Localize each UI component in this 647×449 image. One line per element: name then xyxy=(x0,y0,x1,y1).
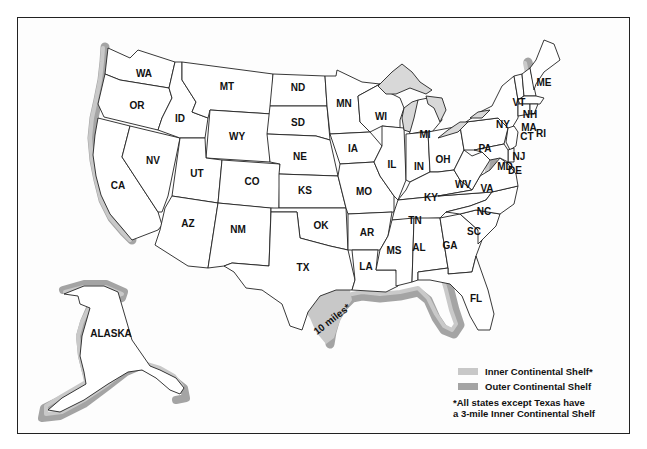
svg-text:ND: ND xyxy=(291,82,305,93)
svg-text:NJ: NJ xyxy=(513,151,526,162)
svg-text:MO: MO xyxy=(356,186,372,197)
lake-superior xyxy=(378,64,432,94)
svg-text:CA: CA xyxy=(111,180,125,191)
svg-text:IL: IL xyxy=(388,159,397,170)
state-ks[interactable] xyxy=(279,174,346,208)
svg-text:UT: UT xyxy=(190,168,203,179)
svg-text:MS: MS xyxy=(387,245,402,256)
svg-text:CO: CO xyxy=(245,176,260,187)
svg-text:NC: NC xyxy=(477,206,491,217)
svg-text:PA: PA xyxy=(478,143,491,154)
legend-label: Inner Continental Shelf* xyxy=(485,366,593,377)
svg-text:ID: ID xyxy=(175,113,185,124)
svg-text:KY: KY xyxy=(424,192,438,203)
inner-shelf-swatch xyxy=(458,368,478,375)
svg-text:FL: FL xyxy=(470,293,482,304)
svg-text:MN: MN xyxy=(336,98,352,109)
svg-text:RI: RI xyxy=(536,128,546,139)
svg-text:SD: SD xyxy=(291,117,305,128)
footnote-line-2: a 3-mile Inner Continental Shelf xyxy=(453,409,628,420)
svg-text:VA: VA xyxy=(480,183,493,194)
svg-text:NH: NH xyxy=(523,109,537,120)
svg-text:NY: NY xyxy=(496,119,510,130)
state-nm[interactable] xyxy=(208,203,271,268)
svg-text:IA: IA xyxy=(348,143,358,154)
svg-text:VT: VT xyxy=(513,97,526,108)
legend-item-outer-shelf: Outer Continental Shelf xyxy=(458,379,628,394)
svg-text:AL: AL xyxy=(412,242,425,253)
legend: Inner Continental Shelf* Outer Continent… xyxy=(458,364,628,419)
state-az[interactable] xyxy=(155,196,218,268)
svg-text:AR: AR xyxy=(360,227,375,238)
svg-text:MT: MT xyxy=(220,81,234,92)
svg-text:OR: OR xyxy=(130,100,146,111)
footnote-line-1: *All states except Texas have xyxy=(453,398,628,409)
svg-text:WV: WV xyxy=(455,179,471,190)
svg-text:NM: NM xyxy=(230,224,246,235)
outer-shelf-swatch xyxy=(458,383,478,390)
svg-text:CT: CT xyxy=(520,131,533,142)
svg-text:MD: MD xyxy=(497,161,513,172)
svg-text:AZ: AZ xyxy=(181,218,194,229)
svg-text:GA: GA xyxy=(443,240,458,251)
svg-text:TX: TX xyxy=(297,262,310,273)
svg-text:OH: OH xyxy=(436,154,451,165)
svg-text:NV: NV xyxy=(146,155,160,166)
svg-text:WI: WI xyxy=(375,111,387,122)
svg-text:WA: WA xyxy=(136,68,152,79)
svg-text:OK: OK xyxy=(314,220,330,231)
svg-text:KS: KS xyxy=(298,185,312,196)
legend-footnote: *All states except Texas have a 3-mile I… xyxy=(453,398,628,419)
svg-text:MI: MI xyxy=(419,129,430,140)
svg-text:LA: LA xyxy=(359,261,372,272)
legend-label: Outer Continental Shelf xyxy=(485,381,591,392)
svg-text:ME: ME xyxy=(537,77,552,88)
svg-text:IN: IN xyxy=(414,161,424,172)
svg-text:NE: NE xyxy=(293,151,307,162)
svg-text:TN: TN xyxy=(408,215,421,226)
svg-text:SC: SC xyxy=(467,226,481,237)
svg-text:ALASKA: ALASKA xyxy=(90,328,132,339)
svg-text:WY: WY xyxy=(229,131,245,142)
legend-item-inner-shelf: Inner Continental Shelf* xyxy=(458,364,628,379)
